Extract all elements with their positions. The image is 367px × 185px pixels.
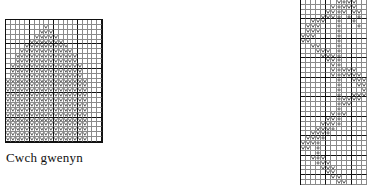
v-stitch-symbol [306,39,310,43]
chart-cell-empty[interactable] [97,137,102,142]
v-stitch-symbol [64,44,68,48]
v-stitch-symbol [11,64,15,68]
yarn-over-symbol [337,63,341,67]
v-stitch-symbol [44,132,48,136]
v-stitch-symbol [16,59,20,63]
v-stitch-symbol [49,35,53,39]
yarn-over-symbol [337,58,341,62]
v-stitch-symbol [342,102,346,106]
v-stitch-symbol [64,74,68,78]
v-stitch-symbol [44,88,48,92]
v-stitch-symbol [78,103,82,107]
v-stitch-symbol [78,118,82,122]
v-stitch-symbol [25,88,29,92]
v-stitch-symbol [73,122,77,126]
chart-caption: Cwch gwenyn [6,150,83,166]
v-stitch-symbol [25,93,29,97]
v-stitch-symbol [30,127,34,131]
v-stitch-symbol [44,59,48,63]
v-stitch-symbol [64,93,68,97]
yarn-over-symbol [337,54,341,58]
beehive-chart [5,19,103,143]
v-stitch-symbol [78,83,82,87]
v-stitch-symbol [316,29,320,33]
v-stitch-symbol [73,113,77,117]
v-stitch-symbol [347,73,351,77]
diagonal-lace-chart-grid[interactable] [300,0,367,185]
v-stitch-symbol [40,103,44,107]
v-stitch-symbol [25,79,29,83]
v-stitch-symbol [30,79,34,83]
yarn-over-symbol [337,15,341,19]
v-stitch-symbol [25,64,29,68]
v-stitch-symbol [59,54,63,58]
v-stitch-symbol [68,127,72,131]
v-stitch-symbol [347,0,351,4]
v-stitch-symbol [59,113,63,117]
v-stitch-symbol [73,59,77,63]
v-stitch-symbol [40,93,44,97]
v-stitch-symbol [49,69,53,73]
v-stitch-symbol [316,131,320,135]
v-stitch-symbol [25,59,29,63]
v-stitch-symbol [331,15,335,19]
v-stitch-symbol [40,44,44,48]
v-stitch-symbol [49,113,53,117]
v-stitch-symbol [40,118,44,122]
v-stitch-symbol [73,54,77,58]
v-stitch-symbol [11,113,15,117]
yarn-over-symbol [316,151,320,155]
yarn-over-symbol [337,10,341,14]
v-stitch-symbol [16,93,20,97]
diagonal-lace-chart [300,0,367,185]
v-stitch-symbol [68,69,72,73]
v-stitch-symbol [331,170,335,174]
v-stitch-symbol [35,40,39,44]
v-stitch-symbol [326,10,330,14]
v-stitch-symbol [25,44,29,48]
v-stitch-symbol [54,74,58,78]
v-stitch-symbol [331,175,335,179]
yarn-over-symbol [337,19,341,23]
v-stitch-symbol [316,44,320,48]
v-stitch-symbol [35,113,39,117]
v-stitch-symbol [331,73,335,77]
v-stitch-symbol [6,98,10,102]
yarn-over-symbol [337,93,341,97]
v-stitch-symbol [83,118,87,122]
v-stitch-symbol [337,180,341,184]
v-stitch-symbol [83,103,87,107]
v-stitch-symbol [331,122,335,126]
v-stitch-symbol [78,137,82,141]
v-stitch-symbol [30,122,34,126]
v-stitch-symbol [11,74,15,78]
v-stitch-symbol [20,79,24,83]
v-stitch-symbol [54,108,58,112]
v-stitch-symbol [352,0,356,4]
v-stitch-symbol [35,44,39,48]
v-stitch-symbol [301,34,305,38]
v-stitch-symbol [321,166,325,170]
v-stitch-symbol [337,0,341,4]
v-stitch-symbol [64,132,68,136]
v-stitch-symbol [44,30,48,34]
v-stitch-symbol [54,83,58,87]
v-stitch-symbol [16,137,20,141]
v-stitch-symbol [25,54,29,58]
v-stitch-symbol [20,113,24,117]
v-stitch-symbol [49,98,53,102]
v-stitch-symbol [44,122,48,126]
yarn-over-symbol [337,112,341,116]
chart-cell-empty[interactable] [362,180,367,185]
v-stitch-symbol [30,59,34,63]
v-stitch-symbol [30,132,34,136]
beehive-chart-grid[interactable] [5,19,103,143]
v-stitch-symbol [49,122,53,126]
v-stitch-symbol [83,113,87,117]
v-stitch-symbol [352,73,356,77]
v-stitch-symbol [54,64,58,68]
v-stitch-symbol [30,118,34,122]
v-stitch-symbol [352,97,356,101]
v-stitch-symbol [54,122,58,126]
v-stitch-symbol [64,137,68,141]
